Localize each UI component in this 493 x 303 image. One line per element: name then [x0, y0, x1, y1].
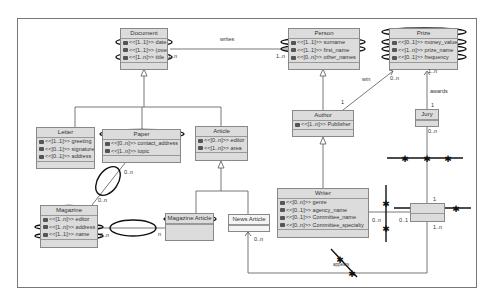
class-name: Prize: [390, 29, 457, 39]
class-name: Letter: [37, 128, 94, 138]
attribute: <<[1..n]>> topic: [103, 148, 180, 156]
label-writes: writes: [220, 36, 234, 42]
label-magazine-top-mult: 0..n: [98, 197, 107, 203]
label-award-bottom-mult: 1..n: [433, 224, 442, 230]
attribute: <<[0..n]>> genre: [278, 199, 368, 207]
attribute-icon: [280, 201, 285, 205]
operations-compartment: [229, 225, 269, 226]
label-paper-mult: 0..n: [124, 169, 133, 175]
attribute: <<[0..n]>> other_names: [289, 54, 359, 62]
attribute: <<[0..1]>> Committee_name: [278, 214, 368, 222]
operations-compartment: [166, 224, 213, 225]
attribute-icon: [123, 56, 128, 60]
class-letter[interactable]: Letter <<[1..1]>> greeting <<[0..1]>> si…: [36, 127, 95, 169]
svg-text:✱: ✱: [382, 199, 390, 209]
svg-text:✱: ✱: [382, 224, 390, 234]
attribute: <<[1..1]>> greeting: [37, 138, 94, 146]
operations-compartment: [293, 129, 353, 130]
label-awards: awards: [430, 88, 448, 94]
class-name: Article: [196, 127, 247, 137]
label-doc-mult: 1..n: [168, 53, 177, 59]
svg-text:✱: ✱: [423, 154, 431, 164]
attribute-icon: [392, 41, 397, 45]
class-award-node[interactable]: [410, 203, 445, 222]
label-person-mult: 1..n: [276, 53, 285, 59]
class-name: Paper: [103, 130, 180, 140]
attribute: <<[0..1]>> frequency: [390, 54, 457, 62]
label-win: win: [362, 76, 370, 82]
class-name: Document: [121, 29, 167, 39]
attribute: <<[0..n]>> Committee_specialty: [278, 222, 368, 230]
attribute-icon: [291, 56, 296, 60]
svg-text:✱: ✱: [452, 204, 460, 214]
attribute: <<[0..1]>> money_value: [390, 39, 457, 47]
attribute-icon: [291, 41, 296, 45]
operations-compartment: [411, 213, 444, 214]
label-jury-top-mult: 1: [431, 102, 434, 108]
class-article[interactable]: Article <<[0..n]>> editor <<[1..n]>> are…: [195, 126, 248, 161]
label-writer-mult: 0..n: [372, 217, 381, 223]
attribute-icon: [39, 147, 44, 151]
class-magazine-article[interactable]: Magazine Article: [165, 213, 214, 241]
attribute: <<[1..n]>> title: [121, 54, 167, 62]
class-name: Author: [293, 111, 353, 121]
attribute: <<[1..n]>> prize_name: [390, 47, 457, 55]
attribute: <<[1..1]>> first_name: [289, 47, 359, 55]
label-prize-award-mult: 1..n: [428, 68, 437, 74]
attribute-icon: [392, 48, 397, 52]
operations-compartment: [278, 229, 368, 230]
attribute-icon: [105, 149, 110, 153]
class-magazine[interactable]: Magazine <<[1..n]>> editor <<[1..n]>> ad…: [40, 205, 98, 248]
class-jury[interactable]: Jury: [415, 109, 439, 127]
attribute-icon: [105, 142, 110, 146]
svg-text:✱: ✱: [444, 154, 452, 164]
class-news-article[interactable]: News Article: [228, 214, 270, 232]
attribute: <<[0..1]>> signature: [37, 146, 94, 154]
class-name: Magazine: [41, 206, 97, 216]
class-writer[interactable]: Writer <<[0..n]>> genre <<[0..1]>> agenc…: [277, 188, 369, 238]
class-author[interactable]: Author <<[1..n]>> Publisher: [292, 110, 354, 137]
class-paper[interactable]: Paper <<[0..n]>> contact_address <<[1..n…: [102, 129, 181, 163]
attribute-icon: [280, 208, 285, 212]
label-news-mult: 0..n: [254, 236, 263, 242]
class-name: Writer: [278, 189, 368, 199]
label-appears: appears: [333, 262, 349, 267]
operations-compartment: [416, 120, 438, 121]
class-prize[interactable]: Prize <<[0..1]>> money_value <<[1..n]>> …: [389, 28, 458, 70]
attribute-icon: [123, 48, 128, 52]
class-name: News Article: [229, 215, 269, 225]
attribute: <<[1..1]>> name: [41, 231, 97, 239]
attribute: <<[1..1]>> surname: [289, 39, 359, 47]
class-document[interactable]: Document <<[1..1]>> date <<[1..1]>> (ove…: [120, 28, 168, 70]
attribute-icon: [198, 146, 203, 150]
attribute: <<[1..n]>> Publisher: [293, 121, 353, 129]
attribute-icon: [43, 233, 48, 237]
label-award-left-mult: 0..1: [399, 217, 408, 223]
attribute: <<[1..1]>> date: [121, 39, 167, 47]
class-person[interactable]: Person <<[1..1]>> surname <<[1..1]>> fir…: [288, 28, 360, 70]
attribute: <<[0..1]>> address: [37, 153, 94, 161]
attribute: <<[0..n]>> editor: [196, 137, 247, 145]
attribute: <<[0..n]>> contact_address: [103, 140, 180, 148]
attribute: <<[1..n]>> area: [196, 145, 247, 153]
operations-compartment: [103, 155, 180, 156]
attribute-icon: [392, 56, 397, 60]
attribute-icon: [198, 139, 203, 143]
attribute-icon: [39, 140, 44, 144]
attribute-icon: [295, 123, 300, 127]
attribute: <<[1..n]>> address: [41, 224, 97, 232]
attribute: <<[1..1]>> (overlaid): [121, 47, 167, 55]
operations-compartment: [121, 62, 167, 63]
class-name: Jury: [416, 110, 438, 120]
svg-text:✱: ✱: [401, 154, 409, 164]
label-author-win-mult: 1: [341, 99, 344, 105]
attribute: <<[0..1]>> agency_name: [278, 207, 368, 215]
attribute-icon: [123, 41, 128, 45]
attribute-icon: [43, 225, 48, 229]
operations-compartment: [390, 62, 457, 63]
operations-compartment: [289, 62, 359, 63]
operations-compartment: [41, 239, 97, 240]
class-name: Magazine Article: [166, 214, 213, 224]
class-name: Person: [289, 29, 359, 39]
attribute: <<[1..n]>> editor: [41, 216, 97, 224]
